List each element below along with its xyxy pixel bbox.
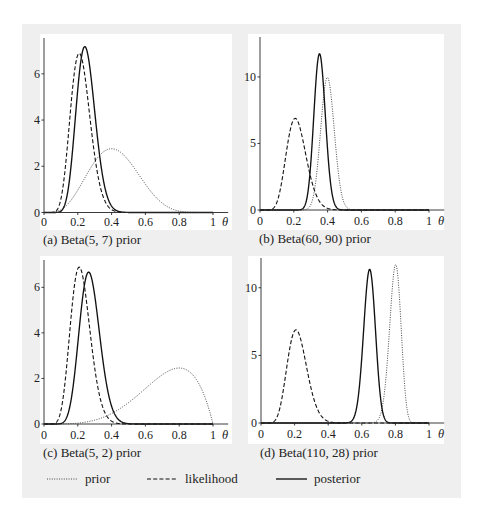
plot-area — [40, 256, 232, 444]
x-tick-label: 0.6 — [354, 427, 369, 441]
x-tick-label: 0.6 — [138, 428, 153, 442]
x-tick-label: 0.4 — [320, 214, 335, 228]
x-tick-label: 1 — [210, 215, 216, 229]
panel-caption: (c) Beta(5, 2) prior — [43, 445, 142, 460]
y-tick-label: 2 — [34, 371, 40, 385]
y-tick-label: 0 — [34, 417, 40, 431]
plot-area — [40, 34, 232, 230]
x-tick-label: 0.6 — [354, 214, 369, 228]
x-tick-label: 0.2 — [287, 427, 302, 441]
legend-posterior-label: posterior — [314, 471, 361, 486]
x-axis-label: θ — [222, 428, 228, 442]
x-tick-label: 0 — [258, 427, 264, 441]
x-tick-label: 1 — [426, 427, 432, 441]
x-axis-label: θ — [222, 215, 228, 229]
legend-prior-label: prior — [85, 471, 111, 486]
x-tick-label: 1 — [210, 428, 216, 442]
figure: 00.20.40.60.81θ0246(a) Beta(5, 7) prior … — [0, 0, 478, 517]
chart-panel-b: 00.20.40.60.81θ0510(b) Beta(60, 90) prio… — [244, 34, 444, 246]
y-tick-label: 2 — [34, 159, 40, 173]
chart-panel-d: 00.20.40.60.81θ0510(d) Beta(110, 28) pri… — [245, 256, 444, 460]
x-tick-label: 0.8 — [172, 215, 187, 229]
x-tick-label: 0.8 — [388, 427, 403, 441]
x-tick-label: 0 — [41, 215, 47, 229]
chart-panel-a: 00.20.40.60.81θ0246(a) Beta(5, 7) prior — [34, 34, 232, 247]
panel-caption: (b) Beta(60, 90) prior — [259, 231, 372, 246]
x-tick-label: 0.4 — [104, 428, 119, 442]
y-tick-label: 0 — [251, 416, 257, 430]
x-tick-label: 0 — [257, 214, 263, 228]
y-tick-label: 6 — [34, 280, 40, 294]
x-tick-label: 0.8 — [172, 428, 187, 442]
panel-caption: (d) Beta(110, 28) prior — [260, 445, 379, 460]
panel-caption: (a) Beta(5, 7) prior — [43, 232, 142, 247]
x-axis-label: θ — [438, 427, 444, 441]
chart-panel-c: 00.20.40.60.81θ0246(c) Beta(5, 2) prior — [34, 256, 232, 460]
x-tick-label: 0.2 — [70, 428, 85, 442]
y-tick-label: 10 — [245, 281, 257, 295]
x-tick-label: 0.8 — [388, 214, 403, 228]
x-tick-label: 0 — [41, 428, 47, 442]
y-tick-label: 4 — [34, 326, 40, 340]
y-tick-label: 0 — [34, 206, 40, 220]
y-tick-label: 4 — [34, 113, 40, 127]
y-tick-label: 6 — [34, 67, 40, 81]
y-tick-label: 0 — [250, 203, 256, 217]
y-tick-label: 10 — [244, 70, 256, 84]
legend: prior likelihood posterior — [47, 471, 361, 486]
x-tick-label: 0.4 — [321, 427, 336, 441]
y-tick-label: 5 — [250, 136, 256, 150]
x-tick-label: 0.2 — [286, 214, 301, 228]
x-tick-label: 0.4 — [104, 215, 119, 229]
x-axis-label: θ — [438, 214, 444, 228]
y-tick-label: 5 — [251, 348, 257, 362]
x-tick-label: 0.6 — [138, 215, 153, 229]
x-tick-label: 1 — [426, 214, 432, 228]
x-tick-label: 0.2 — [70, 215, 85, 229]
legend-likelihood-label: likelihood — [185, 471, 238, 486]
